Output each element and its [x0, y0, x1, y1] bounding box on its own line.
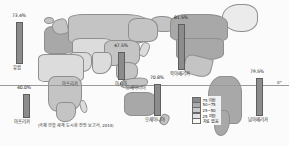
bar-group-south-america: 79.5% 남아메리카 — [254, 70, 278, 116]
bar-group-oceania: 70.8% 오세아니아 — [152, 76, 174, 116]
bar-label-africa: 아프리카 — [14, 118, 30, 124]
legend: 75 이상 50~75 25~50 25 미만 자료 없음 — [190, 96, 221, 125]
bar-group-asia: 47.5% 아시아 — [116, 44, 136, 80]
source-caption: (국제 연합 세계 도시화 전망 보고서, 2014) — [38, 122, 114, 128]
bar-label-europe: 유럽 — [13, 64, 21, 70]
bar-oceania — [154, 84, 161, 116]
bar-north-america — [178, 24, 185, 70]
bar-africa — [23, 94, 30, 118]
bar-value-asia: 47.5% — [114, 43, 128, 48]
bar-south-america — [256, 78, 263, 116]
legend-label: 50~75 — [203, 102, 216, 107]
urbanization-map-figure: 0° 73.4% 유럽 47.5% 아시아 40.0% 아프리카 81.5% 북… — [0, 0, 289, 146]
bar-asia — [118, 52, 125, 80]
bar-group-africa: 40.0% 아프리카 — [20, 86, 42, 118]
landmass-far-east — [128, 18, 158, 42]
bar-value-oceania: 70.8% — [150, 75, 164, 80]
legend-item: 자료 없음 — [192, 119, 219, 124]
bar-value-south-america: 79.5% — [250, 69, 264, 74]
bar-label-south-america: 남아메리카 — [248, 116, 268, 122]
legend-swatch-icon — [192, 118, 201, 124]
bar-value-europe: 73.4% — [12, 13, 26, 18]
map-label-oceania: 오세아니아 — [126, 84, 146, 90]
bar-label-oceania: 오세아니아 — [145, 116, 165, 122]
bar-value-africa: 40.0% — [17, 85, 31, 90]
landmass-southern-africa — [56, 102, 76, 122]
bar-group-europe: 73.4% 유럽 — [14, 14, 34, 64]
legend-label: 자료 없음 — [203, 118, 220, 124]
bar-europe — [16, 22, 23, 64]
map-label-africa: 아프리카 — [62, 80, 78, 86]
bar-group-north-america: 81.5% 북아메리카 — [176, 16, 200, 70]
bar-value-north-america: 81.5% — [174, 15, 188, 20]
bar-label-asia: 아시아 — [115, 80, 127, 86]
